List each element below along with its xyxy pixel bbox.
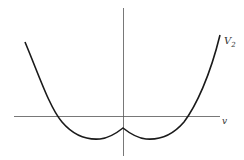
v2-curve (25, 35, 220, 139)
x-axis-label: v (222, 116, 227, 126)
curve-label: V2 (224, 35, 236, 49)
potential-diagram: V2 v (0, 0, 244, 160)
